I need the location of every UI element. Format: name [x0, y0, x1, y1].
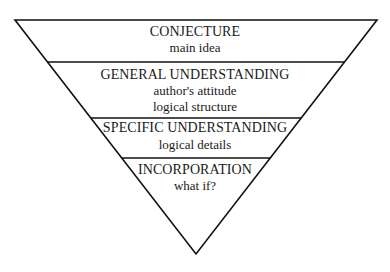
- level-title: CONJECTURE: [0, 24, 390, 39]
- level-detail: logical details: [0, 137, 390, 152]
- level-detail: main idea: [0, 40, 390, 55]
- level-detail: what if?: [0, 178, 390, 193]
- level-title: INCORPORATION: [0, 162, 390, 177]
- level-title: GENERAL UNDERSTANDING: [0, 67, 390, 82]
- level-title: SPECIFIC UNDERSTANDING: [0, 120, 390, 135]
- level-detail: logical structure: [0, 99, 390, 114]
- level-detail: author's attitude: [0, 83, 390, 98]
